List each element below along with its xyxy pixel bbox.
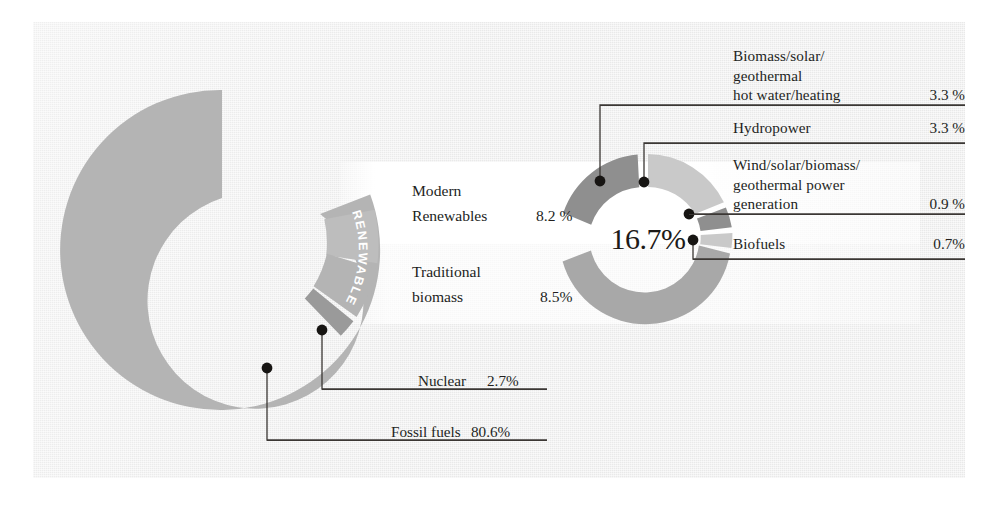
label-fossil-fuels-name: Fossil fuels bbox=[391, 422, 461, 441]
legend-row-biofuels[interactable]: Biofuels 0.7% bbox=[733, 234, 965, 256]
label-modern-renewables-value: 8.2 % bbox=[536, 203, 572, 228]
label-fossil-fuels-value: 80.6% bbox=[471, 422, 510, 441]
inner-slice-traditional-biomass[interactable] bbox=[563, 246, 730, 325]
chart-figure: RENEWABLES bbox=[0, 0, 998, 509]
label-traditional-biomass-value: 8.5% bbox=[540, 284, 572, 309]
legend-row-wind-power[interactable]: Wind/solar/biomass/ geothermal power gen… bbox=[733, 155, 965, 215]
dot-nuclear bbox=[317, 325, 328, 336]
legend-row-hydropower[interactable]: Hydropower 3.3 % bbox=[733, 118, 965, 140]
legend-value-hydropower: 3.3 % bbox=[930, 118, 965, 138]
inner-slice-biomass-solar-geothermal-heat[interactable] bbox=[563, 155, 639, 225]
label-nuclear-value: 2.7% bbox=[487, 371, 519, 390]
legend-value-biomass-heat: 3.3 % bbox=[930, 85, 965, 105]
dot-hydropower bbox=[639, 177, 650, 188]
rule-biofuels bbox=[693, 259, 965, 260]
rule-nuclear bbox=[322, 389, 547, 390]
rule-biomass-heat bbox=[600, 105, 965, 106]
legend-name-biomass-heat: Biomass/solar/ geothermal hot water/heat… bbox=[733, 46, 841, 105]
rule-wind-power bbox=[689, 214, 965, 215]
inner-slice-biofuels[interactable] bbox=[700, 233, 732, 248]
dot-fossil-fuels bbox=[262, 363, 273, 374]
legend-value-wind-power: 0.9 % bbox=[930, 194, 965, 214]
label-nuclear-name: Nuclear bbox=[418, 371, 466, 390]
label-traditional-biomass-name: Traditional biomass bbox=[412, 259, 481, 309]
rule-fossil-fuels bbox=[267, 440, 547, 441]
legend-value-biofuels: 0.7% bbox=[933, 234, 965, 254]
legend-name-wind-power: Wind/solar/biomass/ geothermal power gen… bbox=[733, 155, 860, 214]
legend-row-biomass-heat[interactable]: Biomass/solar/ geothermal hot water/heat… bbox=[733, 46, 965, 106]
dot-biomass-heat bbox=[595, 176, 606, 187]
legend-name-biofuels: Biofuels bbox=[733, 234, 785, 254]
label-modern-renewables-name: Modern Renewables bbox=[412, 178, 487, 228]
center-percentage: 16.7% bbox=[596, 222, 700, 256]
inner-slice-hydropower[interactable] bbox=[648, 154, 724, 214]
rule-hydropower bbox=[644, 143, 965, 144]
legend-name-hydropower: Hydropower bbox=[733, 118, 811, 138]
outer-donut: RENEWABLES bbox=[0, 0, 380, 410]
